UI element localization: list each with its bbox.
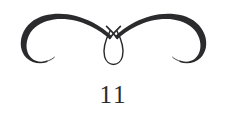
right-swash-hook xyxy=(115,14,206,64)
calligraphic-flourish-divider-icon xyxy=(0,0,227,72)
page-number: 11 xyxy=(0,82,227,108)
ornament-container xyxy=(0,0,227,72)
right-hook-hairline-tip xyxy=(173,57,181,61)
left-hook-hairline-tip xyxy=(46,57,54,61)
left-swash-hook xyxy=(21,14,112,64)
book-page: 11 xyxy=(0,0,227,113)
